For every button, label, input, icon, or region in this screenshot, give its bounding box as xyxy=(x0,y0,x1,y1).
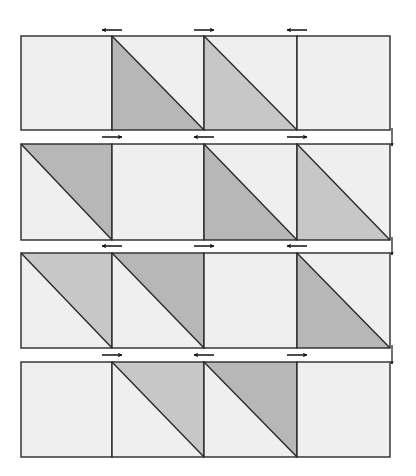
row-2 xyxy=(21,144,390,240)
quilt-block xyxy=(297,144,390,240)
quilt-block xyxy=(297,253,390,348)
quilt-block xyxy=(297,362,390,457)
quilt-block xyxy=(204,36,297,130)
quilt-block xyxy=(204,144,297,240)
quilt-block xyxy=(112,36,204,130)
quilt-block xyxy=(112,144,204,240)
quilt-block xyxy=(21,362,112,457)
quilt-block xyxy=(297,36,390,130)
quilt-diagram xyxy=(0,0,416,476)
row-3 xyxy=(21,253,390,348)
quilt-block xyxy=(112,362,204,457)
quilt-block xyxy=(204,253,297,348)
row-1 xyxy=(21,36,390,130)
quilt-block xyxy=(21,144,112,240)
quilt-block xyxy=(21,253,112,348)
quilt-block xyxy=(112,253,204,348)
quilt-block xyxy=(21,36,112,130)
row-4 xyxy=(21,362,390,457)
quilt-block xyxy=(204,362,297,457)
